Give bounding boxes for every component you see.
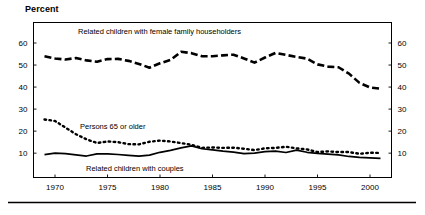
y-tick-label-right: 20 <box>398 127 407 136</box>
y-tick-label-left: 20 <box>19 127 28 136</box>
line-chart-canvas: 102030405060 102030405060 19701975198019… <box>0 0 425 215</box>
y-tick-label-left: 10 <box>19 149 28 158</box>
y-tick-label-left: 30 <box>19 105 28 114</box>
x-tick-label: 1990 <box>256 183 274 192</box>
y-tick-label-right: 30 <box>398 105 407 114</box>
series-line-0 <box>45 52 381 89</box>
x-tick-label: 2000 <box>361 183 379 192</box>
x-tick-label: 1970 <box>46 183 64 192</box>
y-tick-label-right: 40 <box>398 83 407 92</box>
x-tick-label: 1975 <box>99 183 117 192</box>
y-tick-label-left: 40 <box>19 83 28 92</box>
series-annotation-2: Related children with couples <box>86 164 184 173</box>
x-tick-label: 1985 <box>204 183 222 192</box>
y-tick-label-right: 60 <box>398 39 407 48</box>
y-tick-label-left: 50 <box>19 61 28 70</box>
x-tick-label: 1980 <box>151 183 169 192</box>
data-series-layer <box>45 52 381 159</box>
chart-figure: Percent 102030405060 102030405060 197019… <box>0 0 425 215</box>
series-annotation-0: Related children with female family hous… <box>78 27 241 36</box>
x-tick-label: 1995 <box>309 183 327 192</box>
y-tick-label-right: 50 <box>398 61 407 70</box>
y-tick-label-right: 10 <box>398 149 407 158</box>
series-annotation-1: Persons 65 or older <box>80 122 146 131</box>
y-tick-label-left: 60 <box>19 39 28 48</box>
